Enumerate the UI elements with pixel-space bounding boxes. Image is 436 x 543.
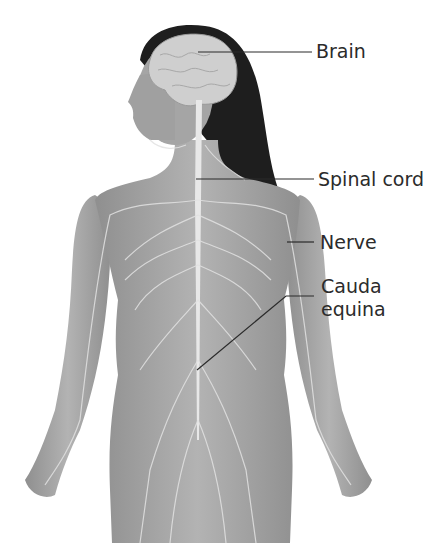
nervous-system-figure: Brain Spinal cord Nerve Cauda equina [0,0,436,543]
label-cauda-equina-line1: Cauda [321,275,382,297]
label-cauda-equina-line2: equina [321,298,386,320]
body-illustration [0,0,436,543]
label-brain: Brain [316,40,366,62]
label-spinal-cord: Spinal cord [318,168,424,190]
label-nerve: Nerve [320,231,377,253]
left-arm [25,195,111,497]
